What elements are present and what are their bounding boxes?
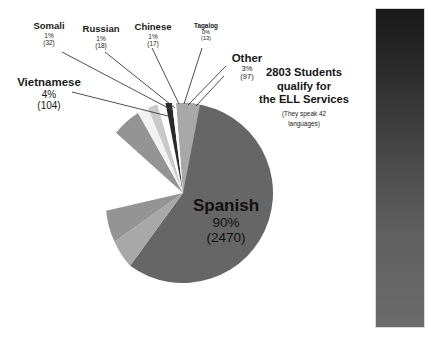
leader-line-tagalog bbox=[184, 48, 202, 104]
slice-label-vietnamese-count: (104) bbox=[6, 100, 92, 111]
slice-label-spanish-name: Spanish bbox=[178, 196, 274, 215]
slice-label-vietnamese-name: Vietnamese bbox=[6, 76, 92, 89]
slice-label-spanish-percent: 90% bbox=[178, 215, 274, 230]
slice-label-vietnamese: Vietnamese 4% (104) bbox=[6, 76, 92, 111]
slice-label-tagalog-count: (13) bbox=[178, 35, 234, 41]
slice-label-other-name: Other bbox=[221, 52, 273, 65]
slice-label-tagalog-name: Tagalog bbox=[178, 22, 234, 29]
chart-subtitle-line-1: (They speak 42 bbox=[246, 110, 362, 117]
slice-label-spanish-count: (2470) bbox=[178, 230, 274, 245]
pie-chart-graphic bbox=[0, 0, 433, 338]
leader-line-chinese bbox=[152, 48, 179, 104]
pie-chart-figure: Somali 1% (32) Russian 1% (18) Chinese 1… bbox=[0, 0, 433, 338]
slice-label-vietnamese-percent: 4% bbox=[6, 89, 92, 100]
chart-subtitle-line-2: languages) bbox=[246, 120, 362, 127]
leader-line-other-b bbox=[196, 76, 224, 106]
gradient-bar-decoration bbox=[375, 8, 425, 328]
slice-label-chinese: Chinese 1% (17) bbox=[122, 22, 184, 47]
chart-title-line-1: 2803 Students bbox=[246, 66, 362, 80]
slice-label-tagalog: Tagalog 0% (13) bbox=[178, 22, 234, 42]
slice-label-chinese-count: (17) bbox=[122, 40, 184, 47]
slice-label-chinese-name: Chinese bbox=[122, 22, 184, 33]
chart-title-block: 2803 Students qualify for the ELL Servic… bbox=[246, 66, 362, 128]
slice-label-chinese-percent: 1% bbox=[122, 33, 184, 40]
chart-title-line-3: the ELL Services bbox=[246, 93, 362, 107]
chart-title-line-2: qualify for bbox=[246, 80, 362, 94]
slice-label-spanish: Spanish 90% (2470) bbox=[178, 196, 274, 245]
